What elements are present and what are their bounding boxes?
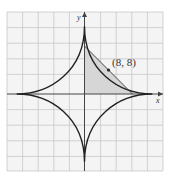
x-axis-label: x — [155, 96, 160, 105]
astroid-diagram: (8, 8) x y — [0, 0, 170, 182]
y-axis-label: y — [76, 13, 81, 22]
point-label: (8, 8) — [112, 56, 136, 69]
tangent-point — [107, 68, 110, 71]
